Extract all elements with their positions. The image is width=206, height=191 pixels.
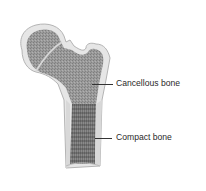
cortex-wall-right (95, 100, 102, 166)
compact-bone-label: Compact bone (116, 133, 172, 142)
cortex-wall-left (66, 100, 70, 168)
compact-leader-line (95, 138, 112, 139)
medullary-cavity (70, 104, 96, 164)
cancellous-leader-line (92, 84, 113, 85)
cancellous-bone-label: Cancellous bone (116, 79, 180, 88)
femur-illustration (0, 0, 206, 191)
femur-diagram: Cancellous bone Compact bone (0, 0, 206, 191)
